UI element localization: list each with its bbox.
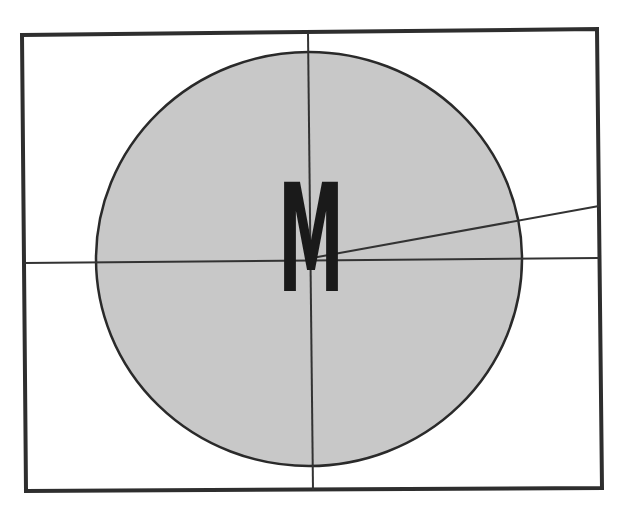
center-label-m: M <box>278 152 344 326</box>
diagram-canvas: M <box>0 0 626 509</box>
